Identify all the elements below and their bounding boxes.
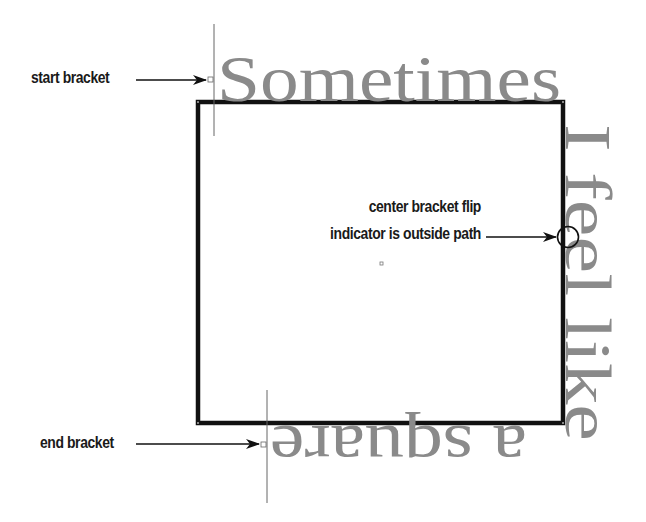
diagram-canvas: Sometimes I feel like a square start bra… (0, 0, 646, 522)
center-bracket-label-line1: center bracket flip (369, 197, 481, 217)
center-bracket-label-line2: indicator is outside path (330, 224, 481, 244)
start-bracket-handle[interactable] (208, 77, 213, 82)
path-text-top: Sometimes (217, 42, 561, 115)
end-bracket-label: end bracket (40, 433, 114, 453)
path-text-bottom: a square (270, 412, 527, 485)
path-center-point (380, 262, 383, 265)
path-text-right: I feel like (552, 124, 625, 441)
end-bracket-handle[interactable] (261, 442, 266, 447)
start-bracket-label: start bracket (31, 68, 109, 88)
